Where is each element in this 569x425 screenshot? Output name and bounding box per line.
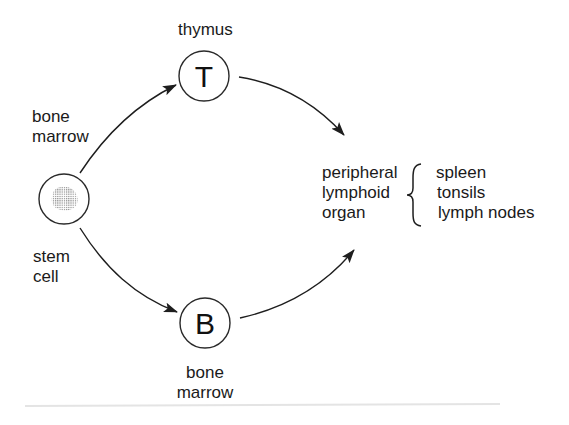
t-cell-letter: T [195, 60, 213, 93]
curly-brace-icon [407, 164, 421, 226]
arrow-bone-marrow-to-peripheral [240, 250, 354, 318]
stem-cell-label-line2: cell [33, 267, 59, 286]
organ-item-tonsils: tonsils [437, 183, 485, 202]
organ-item-spleen: spleen [436, 163, 486, 182]
arrow-stem-to-bone-marrow [80, 228, 177, 312]
bone-marrow-edge-label-line1: bone [32, 107, 70, 126]
bottom-divider [25, 404, 500, 406]
arrow-stem-to-thymus [80, 85, 176, 173]
b-cell-label-line1: bone [186, 363, 224, 382]
peripheral-label-line3: organ [322, 203, 365, 222]
peripheral-label-line1: peripheral [322, 163, 398, 182]
arrow-thymus-to-peripheral [239, 77, 344, 135]
thymus-label: thymus [178, 20, 233, 39]
peripheral-label-line2: lymphoid [322, 183, 390, 202]
organ-item-lymph-nodes: lymph nodes [438, 203, 534, 222]
lymphocyte-development-diagram: stem cell bone marrow thymus T B bone ma… [0, 0, 569, 425]
b-cell-node: B [180, 298, 230, 348]
bone-marrow-edge-label-line2: marrow [32, 127, 89, 146]
peripheral-lymphoid-organ-group: peripheral lymphoid organ spleen tonsils… [322, 163, 534, 226]
b-cell-letter: B [195, 307, 215, 340]
stem-cell-node [39, 174, 89, 224]
stem-cell-label-line1: stem [33, 247, 70, 266]
t-cell-node: T [179, 51, 229, 101]
b-cell-label-line2: marrow [177, 383, 234, 402]
